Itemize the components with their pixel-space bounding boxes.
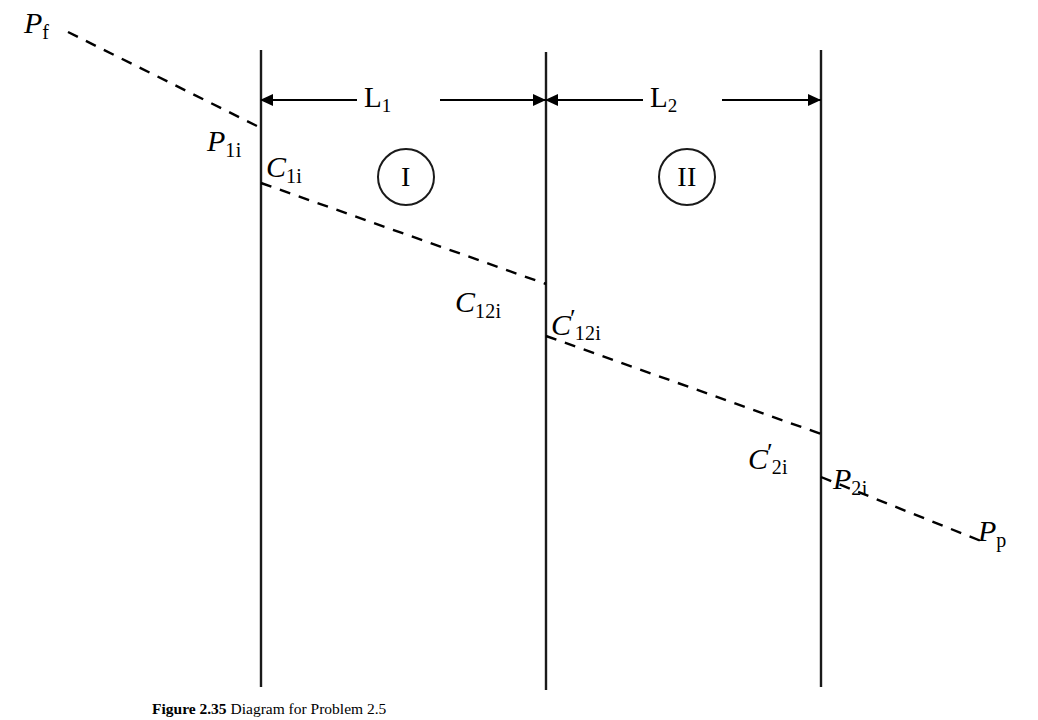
point-label-Pf: Pf [24, 8, 49, 42]
dimension-L1-subscript: 1 [382, 95, 392, 116]
dimension-label-L1: L1 [364, 83, 392, 115]
pressure-segment-inlet [68, 32, 261, 128]
point-label-C2i-prime: C′2i [748, 440, 788, 477]
point-Pf-subscript: f [42, 21, 49, 43]
figure-caption-text: Diagram for Problem 2.5 [231, 700, 387, 717]
point-C12i-prime-subscript: 12i [575, 322, 601, 344]
boundary-lines [261, 50, 821, 690]
point-P1i-subscript: 1i [225, 139, 241, 161]
point-label-P2i: P2i [833, 464, 868, 498]
point-C12i-subscript: 12i [475, 300, 501, 322]
pressure-segment-region2 [546, 336, 821, 434]
point-C2i-prime-subscript: 2i [772, 456, 788, 478]
point-Pp-symbol: P [978, 514, 996, 547]
dimension-label-L2: L2 [650, 83, 678, 115]
point-C12i-symbol: C [455, 285, 475, 318]
figure-caption-label: Figure 2.35 [152, 700, 227, 717]
point-P1i-symbol: P [207, 124, 225, 157]
point-C1i-symbol: C [266, 150, 286, 183]
point-label-C1i: C1i [266, 152, 302, 186]
point-label-C12i-prime: C′12i [551, 306, 601, 343]
point-P2i-subscript: 2i [851, 477, 867, 499]
point-Pf-symbol: P [24, 6, 42, 39]
diagram-canvas [0, 0, 1038, 720]
point-Pp-subscript: p [996, 529, 1006, 551]
region-2-label: II [677, 161, 697, 193]
point-C12i-prime-symbol: C [551, 308, 571, 341]
dimension-L2-symbol: L [650, 81, 668, 113]
figure-container: I II L1 L2 Pf P1i C1i C12i C′12i C′2i P2… [0, 0, 1038, 720]
region-marker-1: I [377, 148, 435, 206]
point-P2i-symbol: P [833, 462, 851, 495]
region-1-label: I [401, 161, 411, 193]
point-label-P1i: P1i [207, 126, 242, 160]
region-marker-2: II [658, 148, 716, 206]
figure-caption: Figure 2.35 Diagram for Problem 2.5 [152, 700, 386, 718]
point-C1i-subscript: 1i [286, 165, 302, 187]
point-label-Pp: Pp [978, 516, 1007, 550]
point-label-C12i: C12i [455, 287, 501, 321]
dimension-L1-symbol: L [364, 81, 382, 113]
point-C2i-prime-symbol: C [748, 442, 768, 475]
dimension-L2-subscript: 2 [668, 95, 678, 116]
